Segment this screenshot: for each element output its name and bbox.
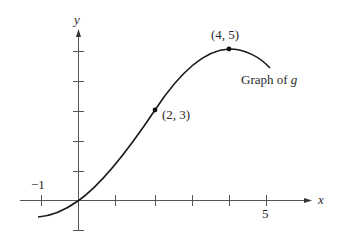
graph-of-g-figure: y x −1 5 (2, 3) (4, 5) Graph of g [0, 0, 341, 243]
y-axis-arrow-icon [76, 29, 81, 37]
tick-label-neg1: −1 [31, 177, 45, 192]
curve-g [38, 49, 270, 217]
point-2-3-marker [153, 108, 158, 113]
tick-label-5: 5 [262, 206, 269, 221]
curve-label-prefix: Graph of [241, 72, 291, 87]
curve-label-fn: g [291, 72, 298, 87]
point-4-5-label: (4, 5) [211, 27, 239, 42]
y-axis-label: y [72, 12, 80, 27]
point-2-3-label: (2, 3) [162, 107, 190, 122]
point-4-5-marker [227, 47, 232, 52]
x-axis-arrow-icon [304, 198, 312, 203]
curve-label: Graph of g [241, 72, 298, 87]
x-axis-label: x [317, 192, 324, 207]
